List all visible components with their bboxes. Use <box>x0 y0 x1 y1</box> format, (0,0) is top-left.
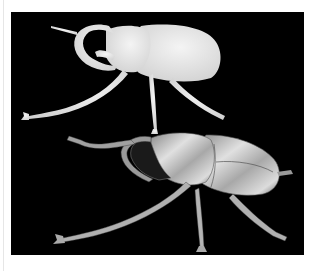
bottom-beetle-metallic <box>53 133 293 252</box>
beetle-illustration <box>11 12 304 255</box>
photo-panel <box>11 12 304 255</box>
left-border-line <box>3 0 4 271</box>
top-beetle-silhouette <box>21 24 225 134</box>
